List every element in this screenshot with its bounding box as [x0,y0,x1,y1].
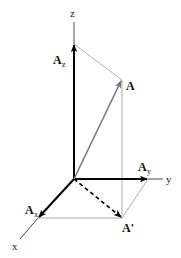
y-axis-label: y [166,173,172,185]
x-axis [20,218,38,239]
z-axis-label: z [70,7,75,19]
vector-a-prime-label: A′ [122,221,134,235]
vector-ax-label: A [25,203,34,217]
vector-ay-label: A [138,160,147,174]
construction-line-aprime-to-ay [122,179,148,218]
vector-ay-subscript: y [147,167,151,176]
construction-line-az-to-a [74,44,122,80]
vector-a-prime [74,179,121,217]
vector-ax [39,179,74,217]
vector-az-subscript: z [62,60,66,69]
vector-a [74,81,121,179]
vector-component-diagram: z y x A A z A y A x A′ [0,0,181,258]
x-axis-label: x [12,240,18,252]
vector-ax-subscript: x [34,210,38,219]
vector-a-label: A [126,79,135,93]
vector-az-label: A [53,53,62,67]
